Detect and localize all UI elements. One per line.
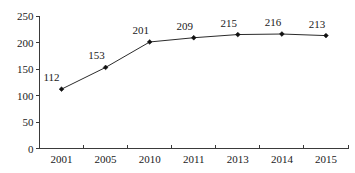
chart-screenshot: 050100150200250 200120052010201120132014… <box>0 0 355 173</box>
data-point-marker <box>147 40 152 45</box>
data-point-marker <box>279 32 284 37</box>
y-tick-label: 100 <box>17 90 34 102</box>
data-point-marker <box>324 33 329 38</box>
y-tick-label: 0 <box>28 143 34 155</box>
y-axis-ticks <box>36 16 40 149</box>
y-axis-tick-labels: 050100150200250 <box>17 10 34 155</box>
y-tick-label: 200 <box>17 37 34 49</box>
line-chart: 050100150200250 200120052010201120132014… <box>0 0 355 173</box>
series-line <box>62 34 326 89</box>
data-point-marker <box>235 32 240 37</box>
data-point-value-label: 216 <box>265 16 282 28</box>
x-tick-label: 2005 <box>95 153 118 165</box>
x-axis-tick-labels: 2001200520102011201320142015 <box>51 153 338 165</box>
data-point-value-label: 215 <box>221 17 238 29</box>
x-axis-ticks <box>40 145 349 149</box>
data-series <box>59 32 328 92</box>
x-tick-label: 2001 <box>51 153 73 165</box>
x-tick-label: 2011 <box>183 153 205 165</box>
data-point-marker <box>191 35 196 40</box>
y-tick-label: 150 <box>17 63 34 75</box>
x-tick-label: 2010 <box>139 153 162 165</box>
y-tick-label: 50 <box>23 116 35 128</box>
data-point-value-label: 201 <box>132 24 149 36</box>
data-point-marker <box>59 87 64 92</box>
data-point-value-label: 153 <box>88 49 105 61</box>
data-point-value-label: 209 <box>177 20 194 32</box>
chart-canvas: 050100150200250 200120052010201120132014… <box>0 0 355 173</box>
data-point-value-label: 213 <box>309 18 326 30</box>
y-axis: 050100150200250 <box>17 10 40 155</box>
data-point-marker <box>103 65 108 70</box>
x-tick-label: 2015 <box>315 153 338 165</box>
x-tick-label: 2014 <box>271 153 294 165</box>
x-axis: 2001200520102011201320142015 <box>40 145 349 165</box>
data-point-labels: 112153201209215216213 <box>43 16 325 83</box>
x-tick-label: 2013 <box>227 153 250 165</box>
data-point-markers <box>59 32 328 92</box>
data-point-value-label: 112 <box>43 71 59 83</box>
y-tick-label: 250 <box>17 10 34 22</box>
